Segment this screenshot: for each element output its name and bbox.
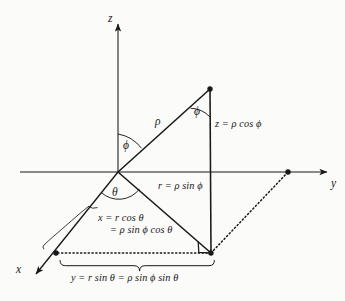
rho-label: ρ xyxy=(155,115,161,129)
z-component-label: z = ρ cos ϕ xyxy=(215,118,261,130)
diagram-canvas xyxy=(0,0,345,301)
x-brace xyxy=(43,207,89,249)
y-brace xyxy=(60,261,214,272)
point-p xyxy=(207,86,212,91)
dotted-to-y-axis xyxy=(211,172,288,253)
z-axis-label: z xyxy=(108,12,113,26)
spherical-coordinates-figure: z y x ϕ ϕ θ ρ z = ρ cos ϕ r = ρ sin ϕ x … xyxy=(0,0,345,301)
x-component-label-line1: x = r cos θ xyxy=(98,212,144,224)
theta-arc xyxy=(101,189,139,199)
phi-arc-origin xyxy=(118,134,142,148)
phi-label-apex: ϕ xyxy=(194,105,200,119)
point-on-y-axis xyxy=(285,169,290,174)
point-on-x-axis xyxy=(53,250,58,255)
phi-label-origin: ϕ xyxy=(123,139,129,153)
rho-segment xyxy=(118,89,210,172)
theta-label: θ xyxy=(112,186,118,200)
x-component-label-line2: = ρ sin ϕ cos θ xyxy=(110,224,172,236)
x-axis-label: x xyxy=(16,263,21,277)
r-component-label: r = ρ sin ϕ xyxy=(158,180,203,192)
z-segment xyxy=(210,89,211,253)
y-component-label: y = r sin θ = ρ sin ϕ sin θ xyxy=(71,272,178,284)
y-axis-label: y xyxy=(331,177,336,191)
